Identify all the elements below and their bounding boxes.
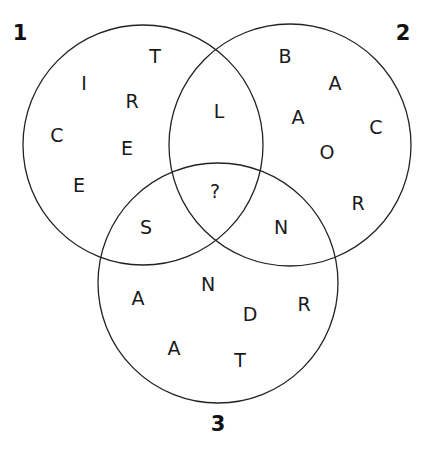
letter-1-only: I [81,72,87,94]
letter-3-only: D [243,303,258,325]
circle-label-1: 1 [13,21,28,45]
letter-1-only: R [125,90,138,112]
letter-1-only: E [121,137,133,159]
letter-3-only: T [233,349,246,371]
letter-3-only: A [132,287,145,309]
letter-2-only: R [351,192,364,214]
letter-1-only: C [50,124,63,146]
letter-3-only: R [297,293,310,315]
letter-2-only: A [292,106,305,128]
letter-1-2-3: ? [210,180,220,202]
letter-3-only: N [201,273,215,295]
letter-2-and-3: N [274,216,288,238]
letter-2-only: A [329,72,342,94]
letter-2-only: B [278,45,291,67]
letter-1-only: E [73,174,85,196]
letter-2-only: C [369,116,382,138]
letter-1-and-2: L [214,100,225,122]
venn-diagram: 123 TIRCEEL?SNBAACORNADRAT [0,0,433,462]
circle-label-2: 2 [396,21,411,45]
letter-2-only: O [320,141,335,163]
region-letters: TIRCEEL?SNBAACORNADRAT [50,45,382,371]
letter-3-only: A [168,337,181,359]
letter-1-and-3: S [140,216,152,238]
circle-label-3: 3 [211,412,226,436]
letter-1-only: T [148,45,161,67]
circle-labels: 123 [13,21,411,436]
